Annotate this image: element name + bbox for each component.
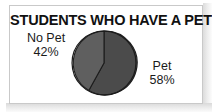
pie-label-pet-name: Pet <box>138 60 186 74</box>
page-title: STUDENTS WHO HAVE A PET <box>10 12 204 28</box>
pie-label-no-pet-value: 42% <box>18 46 74 60</box>
chart-card: STUDENTS WHO HAVE A PET No Pet 42% Pet 5… <box>9 5 203 104</box>
chart-image: STUDENTS WHO HAVE A PET No Pet 42% Pet 5… <box>0 0 212 112</box>
pie-label-pet-value: 58% <box>138 74 186 88</box>
pie-label-no-pet: No Pet 42% <box>18 32 74 59</box>
pie-chart-graphic <box>70 29 138 97</box>
pie-label-pet: Pet 58% <box>138 60 186 87</box>
pie-chart-plot-area: No Pet 42% Pet 58% <box>10 28 204 104</box>
pie-label-no-pet-name: No Pet <box>18 32 74 46</box>
page-shadow-bottom <box>6 103 212 112</box>
